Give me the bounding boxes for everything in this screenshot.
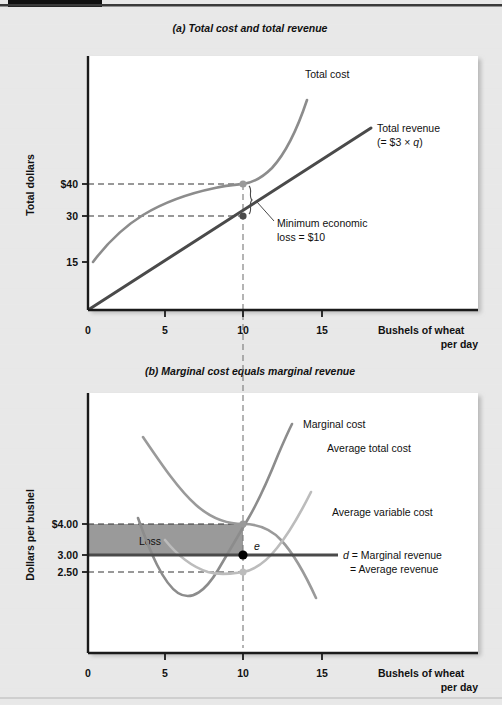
panel-a-label: (a) [173,22,186,34]
panel-a-ylabel-40: $40 [60,178,78,190]
panel-b-label: (b) [145,365,159,377]
panel-a-xlabel-5: 5 [162,324,168,336]
panel-b-xlabel-10: 10 [237,667,249,679]
marginal-cost-label: Marginal cost [303,418,366,430]
panel-b-xlabel-5: 5 [162,667,168,679]
marker-total-cost-q10 [239,180,246,187]
panel-b-ylabel-250: 2.50 [58,566,79,578]
tr-formula-times: × [404,136,410,148]
total-revenue-label-line1: Total revenue [377,122,440,134]
panel-a-y-axis-title: Total dollars [24,154,36,216]
total-revenue-label-line2: (= $3 ×q) [377,136,423,148]
panel-a-xlabel-10: 10 [237,324,249,336]
equilibrium-point-label: e [254,540,260,552]
panel-b-title-text: Marginal cost equals marginal revenue [161,365,355,377]
panel-b-y-axis-title: Dollars per bushel [24,489,36,581]
panel-a-title: (a)Total cost and total revenue [173,22,328,34]
marker-total-revenue-q10 [239,212,246,219]
demand-label-line1: d = Marginal revenue [343,549,442,561]
panel-b-x-axis-title-line1: Bushels of wheat [378,667,465,679]
marker-equilibrium-e [238,550,247,559]
panel-a-ylabel-30: 30 [66,210,78,222]
panel-a-title-text: Total cost and total revenue [188,22,327,34]
figure-root: (a)Total cost and total revenue Mini [0,0,502,705]
average-variable-cost-label: Average variable cost [332,506,433,518]
marker-atc-q10 [239,520,246,527]
panel-a-x-axis-title-line1: Bushels of wheat [378,324,465,336]
marker-avc-q10 [239,568,246,575]
total-cost-label: Total cost [305,68,349,80]
demand-label-line2: = Average revenue [350,563,438,575]
bottom-rule [0,697,502,699]
economics-figure-svg: (a)Total cost and total revenue Mini [0,0,502,705]
panel-b-title: (b)Marginal cost equals marginal revenue [145,365,355,377]
panel-b-ylabel-400: $4.00 [52,518,78,530]
tr-formula-pre: (= $3 [377,136,404,148]
panel-b-xlabel-15: 15 [316,667,328,679]
minimum-loss-annotation-line2: loss = $10 [277,231,325,243]
minimum-loss-annotation-line1: Minimum economic [277,217,367,229]
panel-b: (b)Marginal cost equals marginal revenue… [24,355,478,693]
panel-b-plot-background [88,393,478,653]
average-total-cost-label: Average total cost [327,442,411,454]
panel-b-ylabel-300: 3.00 [58,549,79,561]
panel-a-xlabel-0: 0 [85,324,91,336]
loss-label: Loss [139,535,161,547]
tr-formula-post: ) [419,136,423,148]
top-rule [0,4,502,7]
panel-a: (a)Total cost and total revenue Mini [24,22,478,352]
panel-a-xlabel-15: 15 [316,324,328,336]
panel-a-x-axis-title-line2: per day [441,338,479,350]
demand-label-rest: = Marginal revenue [349,549,442,561]
panel-b-x-axis-title-line2: per day [441,681,479,693]
panel-b-xlabel-0: 0 [85,667,91,679]
panel-a-ylabel-15: 15 [66,256,78,268]
